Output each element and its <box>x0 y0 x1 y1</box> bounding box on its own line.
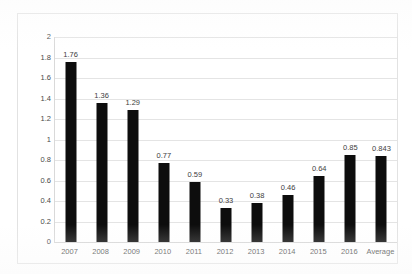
bar-group[interactable]: 0.843 <box>366 37 397 242</box>
y-axis-tick-label: 0.8 <box>21 156 51 164</box>
y-axis-tick-label: 1.8 <box>21 54 51 62</box>
y-axis-tick-label: 1.6 <box>21 74 51 82</box>
y-axis-tick-label: 0.2 <box>21 218 51 226</box>
bar[interactable] <box>96 103 107 242</box>
bar-value-label: 0.77 <box>156 152 171 160</box>
bar-group[interactable]: 0.64 <box>304 37 335 242</box>
y-axis-tick-label: 0 <box>21 238 51 246</box>
bar[interactable] <box>65 62 76 242</box>
y-axis: 00.20.40.60.811.21.41.61.82 <box>18 37 51 242</box>
bar-group[interactable]: 0.59 <box>179 37 210 242</box>
bar-value-label: 0.59 <box>188 171 203 179</box>
x-axis-tick-label: 2008 <box>85 247 116 256</box>
bar-group[interactable]: 0.77 <box>148 37 179 242</box>
bar[interactable] <box>314 176 325 242</box>
bar[interactable] <box>189 182 200 242</box>
gridline <box>55 242 397 243</box>
bar[interactable] <box>158 163 169 242</box>
bar-group[interactable]: 0.38 <box>242 37 273 242</box>
bar-value-label: 0.33 <box>219 197 234 205</box>
bar-value-label: 1.29 <box>125 99 140 107</box>
bar-value-label: 0.64 <box>312 165 327 173</box>
x-axis-tick-label: 2009 <box>116 247 147 256</box>
bar-value-label: 0.46 <box>281 184 296 192</box>
x-axis-tick-label: 2014 <box>272 247 303 256</box>
x-axis-tick-label: 2015 <box>303 247 334 256</box>
bar-value-label: 0.843 <box>372 145 391 153</box>
x-axis-tick-label: 2007 <box>54 247 85 256</box>
y-axis-tick-label: 0.6 <box>21 177 51 185</box>
bar-value-label: 1.36 <box>94 92 109 100</box>
bar-chart: 00.20.40.60.811.21.41.61.82 1.761.361.29… <box>0 0 412 274</box>
bar-group[interactable]: 1.36 <box>86 37 117 242</box>
bar-group[interactable]: 1.76 <box>55 37 86 242</box>
x-axis-tick-label: Average <box>365 247 396 256</box>
bar-group[interactable]: 0.46 <box>273 37 304 242</box>
y-axis-tick-label: 0.4 <box>21 197 51 205</box>
x-axis-tick-label: 2010 <box>147 247 178 256</box>
bar-group[interactable]: 1.29 <box>117 37 148 242</box>
bar[interactable] <box>252 203 263 242</box>
bar-value-label: 1.76 <box>63 51 78 59</box>
x-axis-tick-label: 2013 <box>241 247 272 256</box>
bar[interactable] <box>345 155 356 242</box>
y-axis-tick-label: 1.2 <box>21 115 51 123</box>
chart-frame: 00.20.40.60.811.21.41.61.82 1.761.361.29… <box>17 13 398 264</box>
x-axis-tick-label: 2016 <box>334 247 365 256</box>
y-axis-tick-label: 1 <box>21 136 51 144</box>
y-axis-tick-label: 1.4 <box>21 95 51 103</box>
bar-value-label: 0.38 <box>250 192 265 200</box>
bar[interactable] <box>283 195 294 242</box>
x-axis-tick-label: 2012 <box>209 247 240 256</box>
bar[interactable] <box>376 156 387 242</box>
bar-group[interactable]: 0.33 <box>210 37 241 242</box>
y-axis-tick-label: 2 <box>21 33 51 41</box>
x-axis-tick-label: 2011 <box>178 247 209 256</box>
bar[interactable] <box>220 208 231 242</box>
bar-value-label: 0.85 <box>343 144 358 152</box>
bar[interactable] <box>127 110 138 242</box>
plot-area: 1.761.361.290.770.590.330.380.460.640.85… <box>55 37 397 242</box>
bar-group[interactable]: 0.85 <box>335 37 366 242</box>
